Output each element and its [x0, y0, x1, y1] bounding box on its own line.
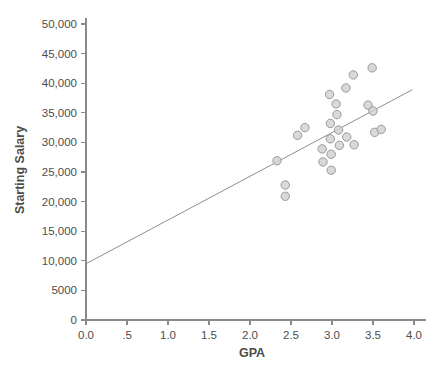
data-point — [293, 131, 301, 139]
plot-canvas: 0500010,00015,00020,00025,00030,00035,00… — [0, 0, 436, 370]
y-tick-label: 35,000 — [42, 107, 77, 119]
scatter-plot-figure: 0500010,00015,00020,00025,00030,00035,00… — [0, 0, 436, 370]
x-tick-label: 0.0 — [78, 329, 94, 341]
data-point — [332, 100, 340, 108]
y-tick-label: 0 — [71, 314, 77, 326]
data-point — [273, 157, 281, 165]
x-axis-tick-labels: 0.0.51.01.52.02.53.03.54.0 — [78, 329, 422, 341]
y-tick-label: 30,000 — [42, 136, 77, 148]
data-points-group — [273, 64, 386, 201]
data-point — [325, 90, 333, 98]
data-point — [342, 84, 350, 92]
data-point — [369, 107, 377, 115]
data-point — [318, 145, 326, 153]
x-tick-label: 2.5 — [283, 329, 299, 341]
x-tick-label: 3.0 — [324, 329, 340, 341]
data-point — [326, 119, 334, 127]
fit-line — [86, 90, 412, 264]
x-tick-label: .5 — [122, 329, 132, 341]
data-point — [327, 166, 335, 174]
y-axis-title: Starting Salary — [13, 126, 27, 214]
data-point — [327, 150, 335, 158]
x-tick-label: 1.0 — [160, 329, 176, 341]
tick-marks-group — [81, 24, 414, 325]
data-point — [326, 135, 334, 143]
data-point — [349, 71, 357, 79]
y-tick-label: 45,000 — [42, 48, 77, 60]
data-point — [319, 158, 327, 166]
data-point — [343, 133, 351, 141]
data-point — [350, 141, 358, 149]
data-point — [334, 126, 342, 134]
y-tick-label: 10,000 — [42, 255, 77, 267]
data-point — [281, 192, 289, 200]
x-tick-label: 2.0 — [242, 329, 258, 341]
data-point — [301, 123, 309, 131]
y-tick-label: 15,000 — [42, 225, 77, 237]
data-point — [368, 64, 376, 72]
y-tick-label: 40,000 — [42, 77, 77, 89]
x-tick-label: 3.5 — [365, 329, 381, 341]
y-tick-label: 25,000 — [42, 166, 77, 178]
data-point — [377, 125, 385, 133]
data-point — [281, 181, 289, 189]
x-tick-label: 4.0 — [406, 329, 422, 341]
data-point — [335, 141, 343, 149]
regression-line — [86, 90, 412, 264]
x-tick-label: 1.5 — [201, 329, 217, 341]
y-tick-label: 50,000 — [42, 18, 77, 30]
y-tick-label: 20,000 — [42, 196, 77, 208]
y-tick-label: 5000 — [51, 284, 77, 296]
y-axis-tick-labels: 0500010,00015,00020,00025,00030,00035,00… — [42, 18, 77, 326]
data-point — [333, 110, 341, 118]
x-axis-title: GPA — [239, 346, 265, 360]
axes-group — [86, 18, 426, 320]
